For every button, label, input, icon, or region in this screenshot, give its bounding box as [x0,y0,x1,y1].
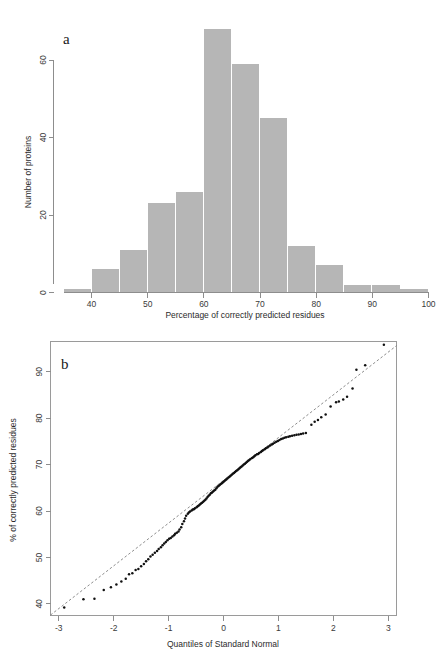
qqplot-point [364,364,367,367]
qqplot-y-ticks: 405060708090 [34,367,51,609]
qqplot-point [147,558,150,561]
qqplot-point [143,563,146,566]
qqplot-point [181,523,184,526]
qqplot-x-tick-label: -1 [165,623,173,633]
qqplot-point [183,520,186,523]
qqplot-point [134,569,137,572]
qqplot-point [184,517,187,520]
qqplot-point [93,598,96,601]
histogram-x-tick-label: 40 [87,299,97,309]
histogram-x-axis-title: Percentage of correctly predicted residu… [165,310,324,320]
two-panel-figure: a 0204060 405060708090100 Percentage of … [0,0,443,655]
histogram-bar [92,269,119,292]
qqplot-y-tick-label: 60 [34,506,44,516]
qqplot-point [302,432,305,435]
qqplot-point [180,526,183,529]
histogram-bar [64,289,91,293]
qqplot-x-tick-label: -2 [110,623,118,633]
qqplot-point [297,433,300,436]
qqplot-x-tick-label: 3 [386,623,391,633]
histogram-bar [232,64,259,293]
qqplot-point [295,434,298,437]
qqplot-point [310,423,313,426]
qqplot-point [291,435,294,438]
histogram-x-tick-label: 100 [421,299,435,309]
panel-a-letter: a [63,31,70,47]
histogram-bar [372,285,399,293]
histogram-y-tick-label: 40 [38,133,48,143]
histogram-y-tick-label: 60 [38,55,48,65]
qqplot-point [137,568,140,571]
histogram-bar [344,285,371,293]
panel-b-qqplot: b 405060708090 -3-2-10123 Quantiles of S… [0,325,443,655]
qqplot-point [289,435,292,438]
qqplot-y-tick-label: 90 [34,367,44,377]
histogram-bar [260,118,287,292]
qqplot-point [329,405,332,408]
qqplot-point [317,419,320,422]
qqplot-point [110,586,113,589]
histogram-bar [288,246,315,293]
qqplot-point [335,401,338,404]
qqplot-y-tick-label: 70 [34,460,44,470]
histogram-y-ticks: 0204060 [38,55,54,295]
qqplot-point [178,528,181,531]
qqplot-point [63,606,66,609]
qqplot-point [342,398,345,401]
qqplot-x-axis-title: Quantiles of Standard Normal [167,639,279,649]
qqplot-data-points [63,344,385,609]
histogram-x-tick-label: 50 [143,299,153,309]
qqplot-point [154,552,157,555]
histogram-y-tick-label: 20 [38,210,48,220]
qqplot-point [140,565,143,568]
qqplot-point [300,433,303,436]
histogram-svg: a 0204060 405060708090100 Percentage of … [0,0,443,325]
qqplot-point [355,369,358,372]
qqplot-point [324,413,327,416]
qqplot-x-tick-label: -3 [55,623,63,633]
qqplot-svg: b 405060708090 -3-2-10123 Quantiles of S… [0,325,443,655]
panel-b-letter: b [61,356,69,372]
qqplot-point [151,553,154,556]
qqplot-point [157,548,160,551]
histogram-y-axis-title: Number of proteins [23,136,33,208]
qqplot-point [305,432,308,435]
qqplot-point [160,546,163,549]
histogram-bar [176,192,203,293]
qqplot-x-ticks: -3-2-10123 [55,616,391,634]
qqplot-point [320,416,323,419]
qqplot-y-axis-title: % of correctly predicted residues [8,418,18,541]
qqplot-point [313,421,316,424]
qqplot-point [346,396,349,399]
qqplot-point [185,514,188,517]
qqplot-point [338,400,341,403]
qqplot-point [149,555,152,558]
histogram-x-tick-label: 80 [311,299,321,309]
histogram-bar [400,289,427,293]
qqplot-y-tick-label: 50 [34,552,44,562]
qqplot-point [351,387,354,390]
histogram-x-tick-label: 70 [255,299,265,309]
qqplot-point [124,578,127,581]
qqplot-point [120,580,123,583]
qqplot-point [383,344,386,347]
histogram-y-tick-label: 0 [38,290,48,295]
histogram-bar [204,29,231,293]
histogram-bar [316,265,343,292]
qqplot-point [128,573,131,576]
qqplot-point [82,598,85,601]
qqplot-point [131,572,134,575]
qqplot-point [115,583,118,586]
histogram-bar [120,250,147,293]
histogram-bars [64,29,428,293]
histogram-x-tick-label: 90 [368,299,378,309]
histogram-bar [148,203,175,292]
qqplot-y-tick-label: 80 [34,413,44,423]
qqplot-point [145,560,148,563]
qqplot-x-tick-label: 1 [276,623,281,633]
qqplot-point [293,434,296,437]
qqplot-x-tick-label: 2 [331,623,336,633]
qqplot-y-tick-label: 40 [34,599,44,609]
panel-a-histogram: a 0204060 405060708090100 Percentage of … [0,0,443,325]
histogram-x-ticks: 405060708090100 [87,293,436,310]
